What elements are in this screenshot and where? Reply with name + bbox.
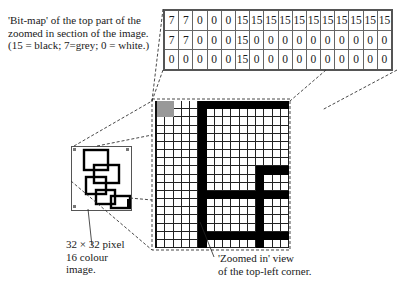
pixel-cell: [248, 191, 256, 199]
pixel-cell: [240, 175, 248, 183]
pixel-cell: [174, 109, 182, 117]
pixel-cell: [198, 215, 206, 223]
pixel-cell: [240, 158, 248, 166]
pixel-cell: [198, 199, 206, 207]
bitmap-cell: 0: [363, 30, 377, 50]
bitmap-cell: 0: [377, 50, 392, 70]
pixel-cell: [190, 109, 198, 117]
pixel-cell: [190, 134, 198, 142]
bitmap-cell: 15: [335, 10, 349, 30]
pixel-cell: [256, 191, 264, 199]
pixel-cell: [273, 232, 281, 240]
pixel-cell: [182, 134, 190, 142]
thumbnail-caption: 32 × 32 pixel 16 colour image.: [66, 238, 124, 276]
pixel-cell: [157, 158, 165, 166]
pixel-cell: [231, 109, 239, 117]
pixel-cell: [281, 150, 289, 158]
pixel-cell: [207, 166, 215, 174]
pixel-cell: [231, 175, 239, 183]
pixel-cell: [157, 199, 165, 207]
pixel-cell: [190, 126, 198, 134]
pixel-cell: [223, 240, 231, 248]
bitmap-row: 77000150000000000: [164, 30, 392, 50]
pixel-cell: [190, 150, 198, 158]
pixel-cell: [248, 158, 256, 166]
pixel-cell: [223, 150, 231, 158]
bitmap-cell: 0: [221, 30, 235, 50]
bitmap-cell: 0: [179, 50, 193, 70]
pixel-cell: [198, 158, 206, 166]
pixel-cell: [240, 215, 248, 223]
pixel-cell: [240, 199, 248, 207]
pixel-cell: [248, 150, 256, 158]
pixel-cell: [281, 175, 289, 183]
pixel-cell: [215, 240, 223, 248]
pixel-cell: [240, 126, 248, 134]
pixel-cell: [264, 117, 272, 125]
bitmap-cell: 0: [377, 30, 392, 50]
pixel-cell: [264, 126, 272, 134]
pixel-cell: [165, 134, 173, 142]
pixel-cell: [273, 117, 281, 125]
pixel-cell: [198, 142, 206, 150]
pixel-cell: [231, 199, 239, 207]
pixel-cell: [223, 117, 231, 125]
pixel-cell: [182, 215, 190, 223]
pixel-cell: [215, 175, 223, 183]
pixel-cell: [182, 175, 190, 183]
pixel-cell: [165, 215, 173, 223]
pixel-cell: [256, 101, 264, 109]
pixel-cell: [231, 232, 239, 240]
pixel-cell: [223, 158, 231, 166]
bitmap-caption: 'Bit-map' of the top part of the zoomed …: [8, 14, 149, 52]
bitmap-cell: 15: [235, 10, 249, 30]
pixel-cell: [248, 224, 256, 232]
pixel-cell: [198, 117, 206, 125]
pixel-cell: [273, 175, 281, 183]
pixel-cell: [165, 191, 173, 199]
bitmap-cell: 0: [164, 50, 179, 70]
pixel-cell: [174, 224, 182, 232]
pixel-cell: [264, 191, 272, 199]
pixel-cell: [215, 117, 223, 125]
pixel-cell: [165, 158, 173, 166]
pixel-cell: [273, 126, 281, 134]
pixel-cell: [248, 199, 256, 207]
pixel-cell: [174, 142, 182, 150]
pixel-cell: [198, 126, 206, 134]
pixel-cell: [174, 126, 182, 134]
pixel-cell: [198, 134, 206, 142]
pixel-cell: [157, 191, 165, 199]
pixel-cell: [223, 175, 231, 183]
pixel-cell: [264, 134, 272, 142]
pixel-cell: [207, 191, 215, 199]
rectangles-icon: [72, 147, 131, 210]
pixel-cell: [157, 224, 165, 232]
pixel-cell: [256, 126, 264, 134]
pixel-cell: [165, 224, 173, 232]
pixel-cell: [182, 158, 190, 166]
bitmap-cell: 0: [363, 50, 377, 70]
bitmap-cell: 0: [264, 30, 278, 50]
pixel-cell: [223, 101, 231, 109]
pixel-cell: [198, 183, 206, 191]
pixel-cell: [223, 166, 231, 174]
pixel-cell: [198, 109, 206, 117]
pixel-cell: [273, 240, 281, 248]
pixel-cell: [264, 150, 272, 158]
zoomed-caption: 'Zoomed in' view of the top-left corner.: [218, 252, 311, 277]
pixel-cell: [174, 158, 182, 166]
pixel-cell: [215, 134, 223, 142]
bitmap-cell: 0: [349, 30, 363, 50]
bitmap-cell: 15: [278, 10, 292, 30]
pixel-cell: [190, 101, 198, 109]
pixel-cell: [207, 101, 215, 109]
pixel-cell: [215, 109, 223, 117]
pixel-cell: [190, 183, 198, 191]
pixel-cell: [190, 175, 198, 183]
pixel-cell: [273, 207, 281, 215]
pixel-cell: [240, 232, 248, 240]
bitmap-cell: 0: [335, 30, 349, 50]
pixel-cell: [182, 109, 190, 117]
pixel-cell: [182, 232, 190, 240]
